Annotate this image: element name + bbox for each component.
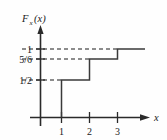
y-axis-arrowhead: [37, 25, 43, 34]
y-tick-label-five-sixths: 5/6: [19, 54, 32, 65]
y-axis-title-base: F: [21, 13, 29, 24]
y-axis-title-subscript: x: [29, 19, 34, 27]
x-tick-labels: 1 2 3: [59, 126, 120, 137]
y-axis-title-argument: (x): [34, 13, 46, 25]
guide-lines: [22, 49, 117, 80]
chart-canvas: 1 5/6 1/2 1 2 3 F x (x) x: [0, 0, 167, 140]
x-axis-title: x: [153, 112, 159, 123]
x-tick-label-3: 3: [115, 126, 120, 137]
y-tick-labels: 1 5/6 1/2: [19, 44, 32, 86]
x-tick-label-2: 2: [87, 126, 92, 137]
y-tick-label-half: 1/2: [19, 75, 32, 86]
cdf-step-chart: 1 5/6 1/2 1 2 3 F x (x) x: [0, 0, 167, 140]
x-axis-arrowhead: [140, 114, 150, 121]
x-tick-label-1: 1: [59, 126, 64, 137]
